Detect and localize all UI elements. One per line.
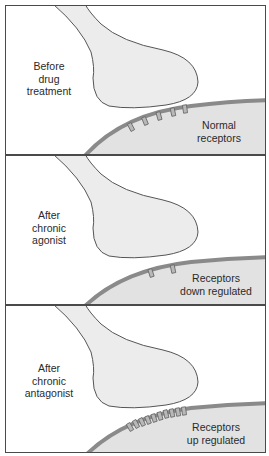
panel-after-chronic-agonist: After chronic agonist Receptors down reg… — [5, 155, 266, 305]
stage-label: After chronic antagonist — [14, 362, 84, 400]
receptor-label: Receptors down regulated — [171, 272, 261, 297]
receptor-label: Receptors up regulated — [171, 421, 261, 446]
receptor-icon — [182, 105, 187, 113]
panel-before-drug-treatment: Before drug treatment Normal receptors — [5, 5, 266, 155]
stage-label: After chronic agonist — [14, 209, 84, 247]
panel-after-chronic-antagonist: After chronic antagonist Receptors up re… — [5, 305, 266, 453]
receptor-label: Normal receptors — [174, 119, 264, 144]
receptor-icon — [181, 407, 186, 415]
receptor-regulation-diagram: Before drug treatment Normal receptors A… — [0, 0, 269, 456]
stage-label: Before drug treatment — [14, 60, 84, 98]
receptor-icon — [175, 408, 180, 417]
